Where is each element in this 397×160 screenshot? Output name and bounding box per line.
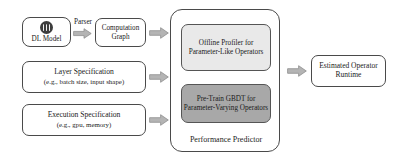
offline-profiler-node[interactable]: Offline Profiler for Parameter-Like Oper… xyxy=(181,24,271,71)
performance-predictor-panel[interactable]: Offline Profiler for Parameter-Like Oper… xyxy=(170,9,280,152)
neural-network-icon xyxy=(40,21,53,34)
layer-specification-title: Layer Specification xyxy=(54,68,114,77)
dl-model-label: DL Model xyxy=(32,35,62,43)
offline-profiler-line2: Parameter-Like Operators xyxy=(189,48,264,57)
performance-predictor-label: Performance Predictor xyxy=(171,135,281,144)
layer-specification-node[interactable]: Layer Specification (e.g., batch size, i… xyxy=(22,61,146,93)
estimated-operator-runtime-node[interactable]: Estimated Operator Runtime xyxy=(311,55,386,87)
computation-graph-node[interactable]: Computation Graph xyxy=(95,18,146,47)
arrow-right-icon-parser xyxy=(73,28,92,39)
execution-specification-subtitle: (e.g., gpu, memory) xyxy=(57,121,112,129)
pretrain-gbdt-line1: Pre-Train GBDT for xyxy=(197,95,256,104)
arrow-right-icon-predictor-to-output xyxy=(287,65,307,77)
dl-model-node[interactable]: DL Model xyxy=(22,17,71,47)
computation-graph-line1: Computation xyxy=(102,24,140,32)
arrow-right-icon-layer-to-predictor xyxy=(149,71,169,83)
pretrain-gbdt-line2: Parameter-Varying Operators xyxy=(184,104,268,113)
arrow-right-icon-exec-to-predictor xyxy=(149,114,169,126)
pretrain-gbdt-node[interactable]: Pre-Train GBDT for Parameter-Varying Ope… xyxy=(181,84,271,123)
parser-label: Parser xyxy=(72,18,94,26)
flow-diagram-canvas: DL Model Parser Computation Graph Layer … xyxy=(0,0,397,160)
offline-profiler-line1: Offline Profiler for xyxy=(199,39,254,48)
execution-specification-title: Execution Specification xyxy=(48,111,121,120)
estimated-runtime-line2: Runtime xyxy=(336,71,362,80)
arrow-right-icon-graph-to-predictor xyxy=(149,27,169,39)
execution-specification-node[interactable]: Execution Specification (e.g., gpu, memo… xyxy=(22,104,146,136)
layer-specification-subtitle: (e.g., batch size, input shape) xyxy=(44,78,124,86)
computation-graph-line2: Graph xyxy=(112,33,130,41)
